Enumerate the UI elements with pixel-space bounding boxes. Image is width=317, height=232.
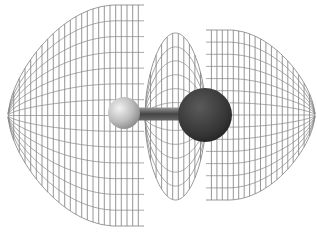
large-atom — [178, 88, 232, 142]
orbital-figure — [0, 0, 317, 232]
bond — [138, 108, 182, 121]
small-atom — [108, 97, 140, 129]
orbital-diagram — [0, 0, 317, 232]
